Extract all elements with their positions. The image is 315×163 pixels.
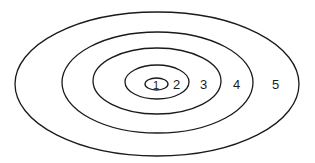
ring-5-label: 5: [272, 77, 279, 92]
diagram-canvas: 1 2 3 4 5: [0, 0, 315, 163]
ring-4-label: 4: [233, 77, 240, 92]
concentric-ellipse-diagram: 1 2 3 4 5: [0, 0, 315, 163]
ring-2-label: 2: [173, 77, 180, 92]
ring-3-label: 3: [200, 77, 207, 92]
ring-1-label: 1: [153, 79, 159, 91]
